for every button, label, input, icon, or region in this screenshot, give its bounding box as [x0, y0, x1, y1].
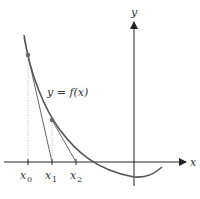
label-x0: x 0: [20, 169, 32, 184]
y-axis-label: y: [130, 6, 138, 19]
curve-label: y = f(x): [46, 86, 88, 99]
tangent-line-at-x1: [52, 120, 76, 162]
label-x0-sub: 0: [27, 175, 32, 184]
label-x1-sub: 1: [52, 175, 57, 184]
label-x2-main: x: [70, 169, 77, 182]
point-on-curve-x0: [26, 53, 30, 57]
label-x1-main: x: [45, 169, 52, 182]
point-on-curve-x1: [50, 118, 54, 122]
newton-method-diagram: y = f(x) y x x 0 x 1 x 2: [0, 0, 200, 199]
x-axis-label: x: [190, 156, 197, 169]
label-x2: x 2: [70, 169, 82, 184]
function-curve: [24, 35, 162, 177]
label-x1: x 1: [45, 169, 57, 184]
label-x0-main: x: [20, 169, 27, 182]
label-x2-sub: 2: [77, 175, 82, 184]
